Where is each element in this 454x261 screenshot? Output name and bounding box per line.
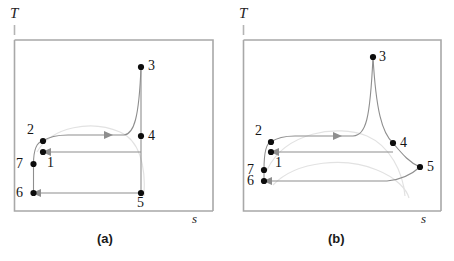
state-point-2 (40, 138, 46, 144)
panel-caption-b: (b) (328, 232, 345, 245)
state-label-6: 6 (247, 174, 254, 188)
state-point-1 (40, 149, 46, 155)
state-point-7 (30, 161, 36, 167)
y-axis-label-T: T (239, 6, 247, 21)
process-3-4 (373, 57, 393, 143)
state-label-6: 6 (16, 186, 23, 200)
state-label-2: 2 (27, 123, 34, 137)
figure-ts-diagram-pair: T s 2 1 7 6 3 4 5 (a) (0, 0, 454, 261)
state-point-6 (261, 178, 267, 184)
state-point-2 (268, 139, 274, 145)
state-point-1 (268, 149, 274, 155)
state-point-3 (370, 54, 376, 60)
state-label-4: 4 (400, 136, 407, 150)
process-2-3 (43, 67, 141, 141)
x-axis-label-s: s (421, 212, 426, 225)
state-point-4 (138, 133, 144, 139)
state-label-3: 3 (148, 59, 155, 73)
panel-b: T s 2 1 7 6 3 4 5 (b) (227, 0, 454, 261)
process-7-2 (264, 142, 271, 170)
state-label-4: 4 (148, 129, 155, 143)
process-2-3 (271, 57, 373, 142)
saturation-dome (267, 131, 405, 196)
state-label-3: 3 (379, 50, 386, 64)
y-axis-label-T: T (10, 6, 18, 21)
plot-frame-axes (15, 40, 214, 211)
state-label-5: 5 (427, 160, 434, 174)
state-point-5 (417, 164, 423, 170)
state-label-7: 7 (16, 157, 23, 171)
state-label-1: 1 (275, 156, 282, 170)
state-point-3 (138, 64, 144, 70)
arrow-2-3 (333, 132, 342, 140)
x-axis-label-s: s (192, 212, 197, 225)
state-point-6 (30, 190, 36, 196)
plot-frame-border (244, 40, 442, 211)
plot-frame-border (15, 40, 214, 211)
panel-a: T s 2 1 7 6 3 4 5 (a) (0, 0, 227, 261)
state-point-4 (390, 140, 396, 146)
arrow-2-3 (104, 131, 113, 139)
state-label-1: 1 (47, 156, 54, 170)
state-label-2: 2 (255, 124, 262, 138)
state-label-5: 5 (137, 196, 144, 210)
saturation-dome-inner (273, 162, 409, 198)
plot-frame-axes (244, 40, 442, 211)
panel-caption-a: (a) (97, 232, 113, 245)
state-point-7 (261, 167, 267, 173)
